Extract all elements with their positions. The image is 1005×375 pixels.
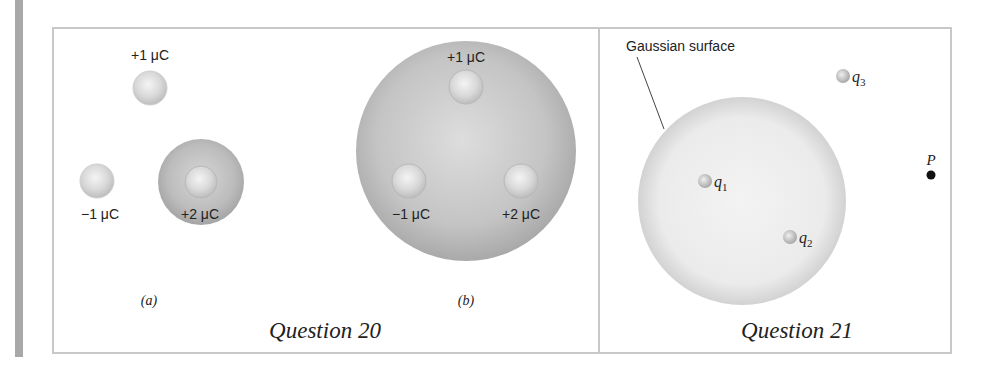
figure-canvas: +1 μC −1 μC +2 μC (a) +1 μC −1 μC +2 μC … bbox=[0, 0, 1005, 375]
point-charge-sphere bbox=[133, 71, 167, 105]
point-charge-sphere bbox=[185, 166, 217, 198]
question-21-figure: Gaussian surface q1 q2 q3 P bbox=[626, 38, 936, 305]
charge-q3 bbox=[836, 69, 850, 83]
point-charge-sphere bbox=[80, 164, 114, 198]
charge-label-q3: q3 bbox=[852, 68, 866, 88]
point-charge-sphere bbox=[504, 164, 538, 198]
point-charge-sphere bbox=[392, 164, 426, 198]
leader-line bbox=[637, 57, 664, 129]
point-p-label: P bbox=[925, 152, 935, 168]
charge-label: +2 μC bbox=[181, 206, 219, 222]
charge-label: −1 μC bbox=[81, 206, 119, 222]
charge-label: +1 μC bbox=[131, 47, 169, 63]
charge-q1 bbox=[698, 174, 712, 188]
panel-label-b: (b) bbox=[458, 293, 475, 309]
question-20-title: Question 20 bbox=[269, 318, 381, 344]
panel-label-a: (a) bbox=[141, 293, 158, 309]
charge-label: −1 μC bbox=[392, 206, 430, 222]
panel-b: +1 μC −1 μC +2 μC (b) bbox=[356, 41, 576, 309]
charge-q2 bbox=[783, 230, 797, 244]
charge-label: +1 μC bbox=[447, 49, 485, 65]
gaussian-surface bbox=[638, 97, 846, 305]
point-charge-sphere bbox=[449, 70, 483, 104]
point-p-dot bbox=[927, 171, 936, 180]
gaussian-surface-label: Gaussian surface bbox=[626, 38, 735, 54]
question-21-title: Question 21 bbox=[741, 318, 853, 344]
panel-a: +1 μC −1 μC +2 μC (a) bbox=[80, 47, 244, 309]
charge-label: +2 μC bbox=[502, 206, 540, 222]
